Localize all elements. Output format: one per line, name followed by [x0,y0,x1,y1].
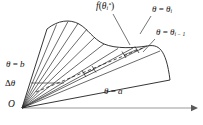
label-f-theta-star: f(θi*) [96,2,114,12]
label-f-theta-star-close: ) [111,1,114,11]
label-theta-a-eq: = [108,86,118,96]
highlighted-sector-group [36,47,144,93]
sector-ray-3 [22,24,78,109]
sector-ray-10-theta-i-minus-1 [22,51,160,108]
region-outline-group [22,21,170,108]
label-theta-i-eq: = [156,4,166,14]
diagram-canvas [0,0,203,125]
label-theta-a: θ = a [104,87,123,96]
sector-ray-1 [22,25,57,109]
axis-arrow-icon [191,105,198,112]
polar-area-figure: f(θi*) θ = θi θ = θi − 1 θ = b Δθ θ = a … [0,0,203,125]
sector-ray-9-theta-i [22,46,147,108]
sector-ray-4 [22,29,87,108]
wedge-tick-inner-right [92,66,96,73]
boundary-curve-f-theta [47,21,170,80]
label-theta-i-sub: i [170,8,172,14]
label-theta-b-value: b [20,59,25,69]
label-theta-i: θ = θi [152,5,172,15]
label-theta-i-minus-1-eq: = [160,27,170,37]
label-delta-theta: Δθ [5,79,15,88]
sector-ray-6 [22,44,104,108]
leader-line-f-theta-star [113,14,130,45]
label-theta-i-minus-1-sub: i − 1 [174,31,185,37]
leader-line-theta-i [140,16,151,34]
label-theta-b: θ = b [6,60,25,69]
midray-theta-star-dashed [36,48,144,93]
polar-axis-group [22,105,198,112]
label-origin: O [8,100,15,110]
sector-ray-8 [22,48,133,108]
label-theta-b-eq: = [10,59,20,69]
label-theta-i-minus-1: θ = θi − 1 [156,28,185,38]
label-theta-a-value: a [118,86,123,96]
label-delta-theta-theta: θ [11,78,15,88]
